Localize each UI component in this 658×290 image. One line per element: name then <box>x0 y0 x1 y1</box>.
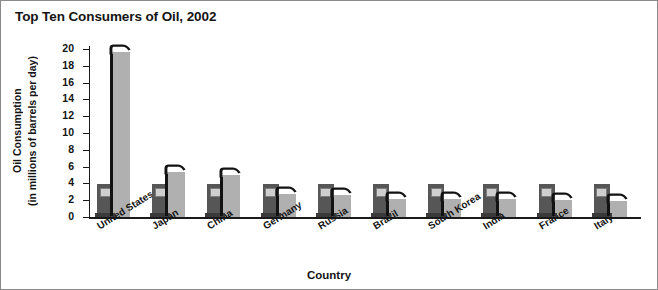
y-axis-tick-label: 2 <box>52 193 74 206</box>
y-axis-tick-label: 20 <box>52 42 74 55</box>
pump-display-icon <box>265 188 276 197</box>
y-axis-tick: 18 <box>83 66 89 67</box>
x-axis-title: Country <box>1 269 657 281</box>
bar-group[interactable] <box>263 49 318 217</box>
y-axis-tick-label: 0 <box>52 210 74 223</box>
bar[interactable] <box>111 52 130 217</box>
y-axis-title-line-2: (in millions of barrels per day) <box>24 41 40 221</box>
y-axis-tick: 2 <box>83 200 89 201</box>
bar-group[interactable] <box>207 49 262 217</box>
chart-title: Top Ten Consumers of Oil, 2002 <box>15 9 216 24</box>
y-axis-tick-label: 6 <box>52 160 74 173</box>
y-axis-tick-label: 18 <box>52 59 74 72</box>
bar-group[interactable] <box>152 49 207 217</box>
pump-base <box>481 213 501 217</box>
y-axis-tick-label: 16 <box>52 76 74 89</box>
pump-display-icon <box>486 188 497 197</box>
pump-display-icon <box>431 188 442 197</box>
pump-base <box>316 213 336 217</box>
pump-display-icon <box>210 188 221 197</box>
y-axis-tick-label: 10 <box>52 126 74 139</box>
bar-group[interactable] <box>539 49 594 217</box>
pump-base <box>205 213 225 217</box>
pump-display-icon <box>320 188 331 197</box>
pump-display-icon <box>100 188 111 197</box>
y-axis-tick: 16 <box>83 83 89 84</box>
y-axis-tick-label: 8 <box>52 143 74 156</box>
pump-display-icon <box>155 188 166 197</box>
y-axis-tick: 6 <box>83 167 89 168</box>
y-axis-line <box>89 46 90 217</box>
pump-display-icon <box>376 188 387 197</box>
pump-base <box>426 213 446 217</box>
pump-base <box>261 213 281 217</box>
y-axis-tick: 12 <box>83 116 89 117</box>
y-axis-tick: 0 <box>83 217 89 218</box>
y-axis-tick-label: 4 <box>52 176 74 189</box>
y-axis-tick-label: 12 <box>52 109 74 122</box>
plot-area: 02468101214161820 <box>89 49 641 217</box>
y-axis-tick: 14 <box>83 99 89 100</box>
bar-group[interactable] <box>483 49 538 217</box>
chart-figure: Top Ten Consumers of Oil, 2002 Oil Consu… <box>0 0 658 290</box>
bar-group[interactable] <box>594 49 649 217</box>
y-axis-title-line-1: Oil Consumption <box>9 41 25 221</box>
y-axis-tick: 8 <box>83 150 89 151</box>
y-axis-title: Oil Consumption (in millions of barrels … <box>7 41 41 221</box>
bar-group[interactable] <box>373 49 428 217</box>
pump-base <box>592 213 612 217</box>
pump-base <box>537 213 557 217</box>
y-axis-tick: 10 <box>83 133 89 134</box>
bar-group[interactable] <box>318 49 373 217</box>
pump-display-icon <box>541 188 552 197</box>
pump-base <box>150 213 170 217</box>
pump-display-icon <box>596 188 607 197</box>
y-axis-tick: 4 <box>83 183 89 184</box>
y-axis-tick: 20 <box>83 49 89 50</box>
pump-base <box>371 213 391 217</box>
y-axis-tick-label: 14 <box>52 92 74 105</box>
pump-base <box>95 213 115 217</box>
